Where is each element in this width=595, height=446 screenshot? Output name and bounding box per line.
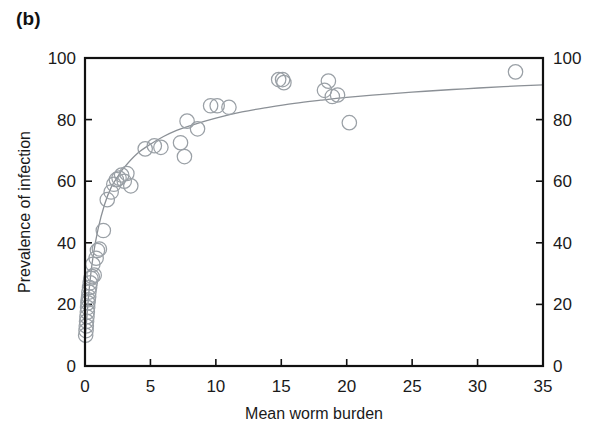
x-tick-label: 25 bbox=[403, 377, 422, 396]
data-point-marker bbox=[330, 88, 344, 102]
data-point-marker bbox=[177, 149, 191, 163]
x-axis-title: Mean worm burden bbox=[245, 405, 383, 422]
y-tick-label-left: 0 bbox=[67, 357, 76, 376]
y-tick-label-left: 20 bbox=[57, 295, 76, 314]
x-tick-label: 5 bbox=[146, 377, 155, 396]
x-tick-label: 15 bbox=[272, 377, 291, 396]
data-points bbox=[78, 65, 522, 343]
y-tick-label-right: 80 bbox=[553, 111, 572, 130]
y-tick-label-right: 100 bbox=[553, 49, 581, 68]
y-axis-title: Prevalence of infection bbox=[16, 131, 33, 293]
data-point-marker bbox=[342, 115, 356, 129]
panel-label: (b) bbox=[16, 8, 41, 30]
y-tick-label-right: 20 bbox=[553, 295, 572, 314]
x-tick-label: 0 bbox=[80, 377, 89, 396]
x-tick-label: 35 bbox=[534, 377, 553, 396]
data-point-marker bbox=[271, 72, 285, 86]
figure-panel: (b) 020406080100 020406080100 0510152025… bbox=[0, 0, 595, 446]
plot-frame bbox=[85, 58, 543, 366]
data-point-marker bbox=[508, 65, 522, 79]
data-point-marker bbox=[138, 142, 152, 156]
y-axis-right-labels: 020406080100 bbox=[553, 49, 581, 376]
x-tick-label: 30 bbox=[468, 377, 487, 396]
x-axis-labels: 05101520253035 bbox=[80, 377, 552, 396]
scatter-plot: 020406080100 020406080100 05101520253035… bbox=[0, 0, 595, 446]
data-point-marker bbox=[203, 99, 217, 113]
data-point-marker bbox=[173, 136, 187, 150]
data-point-marker bbox=[321, 74, 335, 88]
y-tick-label-right: 40 bbox=[553, 234, 572, 253]
data-point-marker bbox=[124, 179, 138, 193]
y-tick-label-left: 40 bbox=[57, 234, 76, 253]
y-tick-label-left: 60 bbox=[57, 172, 76, 191]
y-axis-left-labels: 020406080100 bbox=[48, 49, 76, 376]
x-tick-label: 20 bbox=[337, 377, 356, 396]
y-tick-label-right: 0 bbox=[553, 357, 562, 376]
y-tick-label-left: 100 bbox=[48, 49, 76, 68]
x-tick-label: 10 bbox=[206, 377, 225, 396]
fit-curve bbox=[85, 85, 543, 342]
y-tick-label-right: 60 bbox=[553, 172, 572, 191]
y-tick-label-left: 80 bbox=[57, 111, 76, 130]
